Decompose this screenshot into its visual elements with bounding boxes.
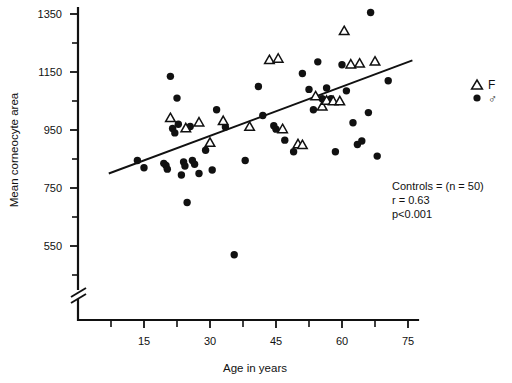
data-point-male: [134, 157, 141, 164]
data-point-male: [358, 137, 365, 144]
data-point-male: [323, 84, 330, 91]
data-point-male: [332, 148, 339, 155]
data-point-male: [374, 152, 381, 159]
x-tick-label-45: 45: [270, 335, 282, 347]
x-axis-line: [78, 300, 418, 320]
y-tick-label-1350: 1350: [38, 8, 62, 20]
plot-canvas: 1350 1150 950 750 550 15 30 45 60 75: [0, 0, 512, 383]
data-point-male: [181, 162, 188, 169]
y-axis-title: Mean corneocyte area: [8, 92, 20, 207]
y-tick-label-1150: 1150: [38, 66, 62, 78]
data-point-male: [310, 106, 317, 113]
stats-r-value: r = 0.63: [392, 194, 430, 206]
data-point-male: [305, 86, 312, 93]
data-point-male: [209, 166, 216, 173]
data-point-female: [355, 59, 365, 67]
data-point-male: [231, 251, 238, 258]
legend-label-female: F: [488, 78, 495, 92]
y-tick-label-550: 550: [44, 240, 62, 252]
data-point-male: [314, 58, 321, 65]
data-point-male: [183, 199, 190, 206]
x-axis-title: Age in years: [223, 362, 287, 374]
data-point-female: [346, 60, 356, 68]
data-point-female: [205, 138, 215, 146]
data-point-male: [281, 136, 288, 143]
data-point-male: [349, 119, 356, 126]
data-point-male: [171, 129, 178, 136]
data-point-female: [339, 26, 349, 34]
stats-annotation: Controls = (n = 50) r = 0.63 p<0.001: [392, 180, 484, 220]
data-point-female: [273, 54, 283, 62]
data-point-female: [194, 118, 204, 126]
data-point-female: [166, 113, 176, 121]
data-points-male: [134, 9, 392, 259]
y-tick-label-950: 950: [44, 124, 62, 136]
data-point-male: [338, 61, 345, 68]
data-point-male: [259, 112, 266, 119]
data-point-male: [191, 161, 198, 168]
y-tick-label-group: 1350 1150 950 750 550: [38, 8, 62, 252]
stats-p-value: p<0.001: [392, 208, 432, 220]
stats-controls: Controls = (n = 50): [392, 180, 484, 192]
data-point-male: [140, 164, 147, 171]
data-point-male: [385, 77, 392, 84]
data-point-male: [365, 109, 372, 116]
data-point-male: [164, 165, 171, 172]
y-tick-label-750: 750: [44, 182, 62, 194]
data-point-male: [290, 148, 297, 155]
data-point-male: [202, 147, 209, 154]
x-tick-label-15: 15: [138, 335, 150, 347]
data-point-female: [370, 57, 380, 65]
scatter-plot-figure: 1350 1150 950 750 550 15 30 45 60 75: [0, 0, 512, 383]
data-point-female: [335, 96, 345, 104]
data-point-male: [195, 170, 202, 177]
legend-label-male: ♂: [488, 92, 497, 106]
y-axis-ticks: [70, 14, 78, 275]
data-point-male: [178, 171, 185, 178]
x-axis-ticks: [111, 320, 408, 328]
data-point-male: [343, 87, 350, 94]
legend-triangle-icon: [472, 80, 483, 89]
x-tick-label-75: 75: [402, 335, 414, 347]
x-tick-label-30: 30: [204, 335, 216, 347]
x-tick-label-group: 15 30 45 60 75: [138, 335, 414, 347]
data-point-male: [167, 73, 174, 80]
data-point-male: [242, 157, 249, 164]
data-point-male: [367, 9, 374, 16]
data-point-male: [299, 70, 306, 77]
data-point-male: [255, 83, 262, 90]
data-point-male: [173, 94, 180, 101]
x-tick-label-60: 60: [336, 335, 348, 347]
data-point-female: [218, 116, 228, 124]
data-point-male: [213, 106, 220, 113]
legend: F ♂: [472, 78, 497, 106]
legend-circle-icon: [473, 94, 480, 101]
